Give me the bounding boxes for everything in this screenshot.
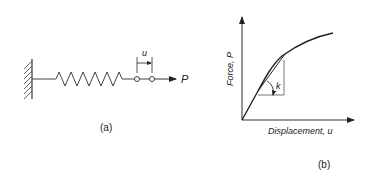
panel-a-spring-system: P u (a)	[24, 48, 189, 133]
diagram-canvas: P u (a) k Force, P Displacement, u (b)	[0, 0, 381, 172]
caption-a: (a)	[100, 122, 112, 133]
force-label: P	[181, 73, 189, 85]
spring-icon	[32, 72, 134, 86]
y-axis-label: Force, P	[225, 52, 235, 86]
slope-angle-arc	[267, 81, 273, 95]
x-axis-label: Displacement, u	[268, 126, 333, 136]
node-displaced	[150, 77, 155, 82]
fixed-wall-icon	[24, 59, 32, 99]
panel-b-force-displacement-chart: k Force, P Displacement, u (b)	[225, 17, 354, 170]
displacement-label: u	[142, 48, 147, 58]
displacement-indicator	[137, 57, 152, 73]
force-curve	[242, 33, 333, 120]
slope-label: k	[276, 81, 281, 91]
node-initial	[135, 77, 140, 82]
caption-b: (b)	[318, 159, 330, 170]
